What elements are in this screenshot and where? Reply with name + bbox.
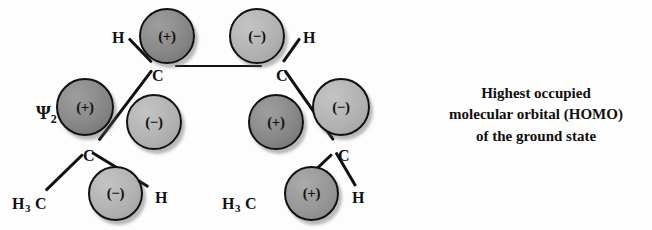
- bond-c2-h2: [282, 37, 301, 63]
- atom-c3: C: [83, 148, 95, 164]
- atom-h2: H: [303, 30, 315, 46]
- lobe-c3-bottom-sign: (−): [107, 186, 125, 201]
- lobe-c1-left: (+): [56, 78, 114, 136]
- atom-methyl-left: H3 C: [12, 196, 47, 212]
- bond-c3-methyl: [45, 153, 84, 191]
- caption-line-3: of the ground state: [430, 126, 642, 147]
- lobe-c4-inner: (+): [248, 94, 304, 150]
- lobe-c2-right: (−): [312, 78, 370, 136]
- wavefunction-label: Ψ2: [36, 103, 57, 122]
- caption-line-2: molecular orbital (HOMO): [430, 104, 642, 125]
- bond-c1-c2: [175, 65, 262, 68]
- lobe-c2-right-sign: (−): [332, 100, 350, 115]
- atom-methyl-left-subscript: 3: [24, 202, 31, 214]
- lobe-c1-left-sign: (+): [76, 100, 94, 115]
- lobe-c4-bottom: (+): [284, 166, 339, 221]
- atom-h1: H: [112, 30, 124, 46]
- molecular-orbital-diagram: Ψ2 (+)(−)(+)(−)(−)(+)(−)(+) CCCCHHHHH3 C…: [0, 0, 652, 230]
- lobe-c1-top: (+): [139, 8, 195, 64]
- atom-methyl-right: H3 C: [222, 196, 257, 212]
- atom-h3: H: [155, 190, 167, 206]
- atom-methyl-left-text: H: [12, 195, 24, 212]
- caption: Highest occupiedmolecular orbital (HOMO)…: [430, 83, 642, 147]
- atom-methyl-right-text: H: [222, 195, 234, 212]
- atom-c2: C: [276, 68, 288, 84]
- atom-methyl-right-carbon: C: [241, 195, 257, 212]
- lobe-c3-inner-sign: (−): [145, 115, 163, 130]
- lobe-c1-top-sign: (+): [158, 29, 176, 44]
- lobe-c4-inner-sign: (+): [267, 115, 285, 130]
- lobe-c3-bottom: (−): [88, 166, 143, 221]
- caption-line-1: Highest occupied: [430, 83, 642, 104]
- lobe-c4-bottom-sign: (+): [303, 186, 321, 201]
- lobe-c2-top: (−): [229, 8, 285, 64]
- atom-h4: H: [352, 190, 364, 206]
- atom-c1: C: [152, 68, 164, 84]
- wavefunction-symbol: Ψ: [36, 102, 51, 123]
- atom-methyl-left-carbon: C: [31, 195, 47, 212]
- lobe-c3-inner: (−): [126, 94, 182, 150]
- atom-methyl-right-subscript: 3: [234, 202, 241, 214]
- atom-c4: C: [338, 148, 350, 164]
- lobe-c2-top-sign: (−): [248, 29, 266, 44]
